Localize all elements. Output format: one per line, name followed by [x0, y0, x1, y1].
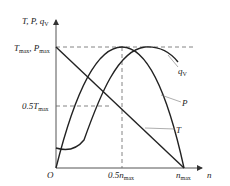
y-axis-label: T, P, qV [22, 16, 49, 27]
flow-curve [56, 47, 178, 150]
torque-power-flow-diagram: T, P, qV Tmax, Pmax 0.5Tmax O 0.5nmax nm… [0, 0, 230, 186]
t-curve-label: T [176, 125, 182, 135]
tick-label-half-tmax: 0.5Tmax [22, 101, 49, 112]
p-curve-label: P [181, 98, 188, 108]
origin-label: O [47, 170, 54, 180]
torque-curve [56, 47, 184, 168]
qv-curve-label: qV [178, 66, 188, 77]
x-axis-label: n [207, 170, 212, 180]
t-leader [145, 128, 175, 129]
tick-label-half-nmax: 0.5nmax [108, 170, 134, 181]
tick-label-nmax: nmax [176, 170, 191, 181]
tick-label-tmax-pmax: Tmax, Pmax [14, 43, 50, 54]
